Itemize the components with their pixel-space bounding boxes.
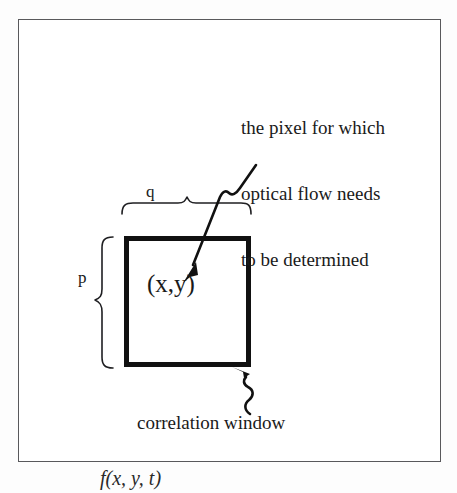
callout-line-1: the pixel for which [241, 117, 385, 139]
callout-line-2: optical flow needs [241, 183, 385, 205]
figure-caption: f(x, y, t) [100, 467, 161, 490]
height-label-p: p [78, 267, 87, 289]
callout-line-3: to be determined [241, 249, 385, 271]
callout-text-block: the pixel for which optical flow needs t… [241, 73, 385, 315]
optical-flow-diagram: the pixel for which optical flow needs t… [0, 0, 457, 493]
center-pixel-label: (x,y) [147, 273, 195, 295]
width-label-q: q [146, 181, 155, 203]
correlation-window-square [124, 236, 251, 367]
correlation-window-label: correlation window [137, 412, 285, 434]
